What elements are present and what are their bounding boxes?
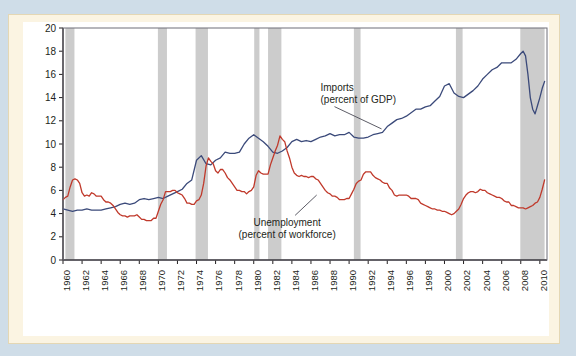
x-tick-label-1970: 1970 — [156, 270, 167, 291]
imports-annotation-line1: Imports — [320, 82, 353, 93]
figure-plot-card: 02468101214161820 1960196219641966196819… — [23, 22, 549, 336]
x-axis-group: 1960196219641966196819701972197419761978… — [61, 260, 549, 291]
y-tick-label-10: 10 — [45, 139, 57, 150]
y-tick-label-6: 6 — [50, 185, 56, 196]
annotations-group: Imports(percent of GDP)Unemployment(perc… — [238, 82, 396, 241]
recession-band-1 — [158, 28, 167, 260]
x-tick-label-1998: 1998 — [423, 270, 434, 291]
figure-frame: 02468101214161820 1960196219641966196819… — [8, 14, 560, 344]
y-axis-group: 02468101214161820 — [45, 23, 63, 266]
x-tick-label-1992: 1992 — [366, 270, 377, 291]
y-tick-label-18: 18 — [45, 46, 57, 57]
x-tick-label-1962: 1962 — [80, 270, 91, 291]
unemployment-annotation-line2: (percent of workforce) — [238, 229, 335, 240]
y-tick-label-0: 0 — [50, 255, 56, 266]
recession-band-5 — [354, 28, 361, 260]
x-tick-label-1982: 1982 — [271, 270, 282, 291]
recession-band-7 — [520, 28, 544, 260]
x-tick-label-1984: 1984 — [290, 270, 301, 291]
x-tick-label-1988: 1988 — [328, 270, 339, 291]
series-line-unemployment — [63, 136, 545, 221]
x-tick-label-1974: 1974 — [194, 270, 205, 291]
x-tick-label-1968: 1968 — [137, 270, 148, 291]
unemployment-annotation-line1: Unemployment — [253, 217, 320, 228]
imports-unemployment-chart: 02468101214161820 1960196219641966196819… — [23, 22, 549, 336]
x-tick-label-2004: 2004 — [481, 270, 492, 291]
y-tick-label-2: 2 — [50, 231, 56, 242]
x-tick-label-1986: 1986 — [309, 270, 320, 291]
y-tick-label-4: 4 — [50, 208, 56, 219]
x-tick-label-2000: 2000 — [442, 270, 453, 291]
x-tick-label-1990: 1990 — [347, 270, 358, 291]
unemployment-annotation-leader — [295, 195, 317, 215]
x-tick-label-2006: 2006 — [500, 270, 511, 291]
x-tick-label-2008: 2008 — [519, 270, 530, 291]
x-tick-label-1980: 1980 — [252, 270, 263, 291]
x-tick-label-1966: 1966 — [118, 270, 129, 291]
recession-band-2 — [196, 28, 208, 260]
x-tick-label-1978: 1978 — [233, 270, 244, 291]
y-tick-label-12: 12 — [45, 115, 57, 126]
series-group — [63, 51, 545, 220]
y-tick-label-8: 8 — [50, 162, 56, 173]
y-tick-label-14: 14 — [45, 92, 57, 103]
x-tick-label-1994: 1994 — [385, 270, 396, 291]
series-line-imports — [63, 51, 545, 211]
imports-annotation-line2: (percent of GDP) — [320, 94, 396, 105]
y-tick-label-16: 16 — [45, 69, 57, 80]
y-tick-label-20: 20 — [45, 23, 57, 34]
x-tick-label-1960: 1960 — [61, 270, 72, 291]
recession-band-0 — [65, 28, 74, 260]
x-tick-label-1964: 1964 — [99, 270, 110, 291]
recession-band-6 — [456, 28, 463, 260]
x-tick-label-1996: 1996 — [404, 270, 415, 291]
x-tick-label-1972: 1972 — [175, 270, 186, 291]
x-tick-label-2002: 2002 — [461, 270, 472, 291]
x-tick-label-2010: 2010 — [538, 270, 549, 291]
x-tick-label-1976: 1976 — [213, 270, 224, 291]
